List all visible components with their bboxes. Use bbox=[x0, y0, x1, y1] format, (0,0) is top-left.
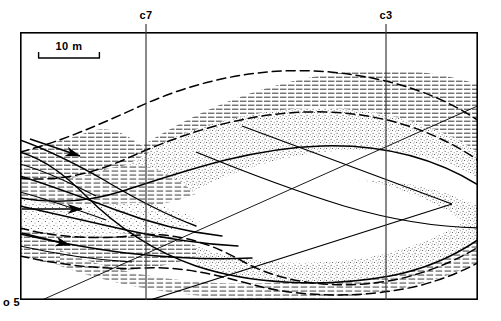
core-label-c7: c7 bbox=[140, 9, 153, 21]
cross-section-figure: 10 m c7 c3 o 5 bbox=[0, 0, 501, 321]
cross-section-canvas: 10 m c7 c3 o 5 bbox=[0, 0, 501, 321]
scale-bar: 10 m bbox=[38, 40, 100, 58]
section-body bbox=[20, 70, 500, 300]
core-label-c3: c3 bbox=[380, 9, 393, 21]
scale-bar-label: 10 m bbox=[55, 40, 82, 52]
corner-label-o5: o 5 bbox=[3, 296, 20, 308]
